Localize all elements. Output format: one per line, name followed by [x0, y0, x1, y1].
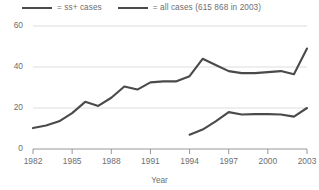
x-tick-label-1994: 1994	[175, 157, 205, 166]
x-tick-label-1985: 1985	[57, 157, 87, 166]
y-tick-label-60: 60	[5, 21, 23, 30]
y-tick-label-0: 0	[5, 144, 23, 153]
y-tick-label-20: 20	[5, 103, 23, 112]
series-line-ss-plus-cases	[190, 108, 307, 135]
x-tick-label-1988: 1988	[96, 157, 126, 166]
x-tick-label-1991: 1991	[135, 157, 165, 166]
chart-x-tick-marks	[33, 149, 307, 154]
chart-container: = ss+ cases = all cases (615 868 in 2003…	[0, 0, 319, 190]
series-line-all-cases	[33, 49, 307, 129]
chart-gridlines	[33, 26, 307, 149]
x-tick-label-2000: 2000	[253, 157, 283, 166]
x-tick-label-1997: 1997	[214, 157, 244, 166]
x-axis-title: Year	[0, 176, 319, 185]
chart-series-lines	[33, 49, 307, 135]
x-tick-label-2003: 2003	[292, 157, 319, 166]
y-tick-label-40: 40	[5, 62, 23, 71]
x-tick-label-1982: 1982	[18, 157, 48, 166]
chart-plot-area: 6040200 19821985198819911994199720002003…	[0, 0, 319, 190]
